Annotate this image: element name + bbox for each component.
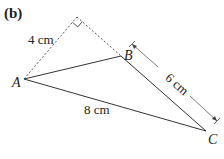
vertex-label-A: A	[11, 75, 21, 90]
side-AB	[24, 56, 121, 79]
vertex-label-C: C	[208, 132, 218, 147]
vertex-label-B: B	[124, 48, 133, 63]
triangle-diagram: (b) 4 cm 6 cm 8 cm A B C	[0, 0, 224, 159]
dashed-height-line	[24, 17, 77, 79]
label-8cm: 8 cm	[84, 102, 110, 117]
label-4cm: 4 cm	[28, 32, 54, 47]
dimension-line-bc-upper	[132, 44, 158, 67]
label-6cm: 6 cm	[163, 70, 192, 98]
dimension-line-bc-lower	[190, 96, 217, 121]
side-BC	[121, 56, 206, 131]
part-label: (b)	[4, 5, 22, 22]
right-angle-marker	[73, 22, 83, 27]
dashed-extension-line	[77, 17, 121, 56]
arrowhead-top-icon	[132, 44, 137, 49]
